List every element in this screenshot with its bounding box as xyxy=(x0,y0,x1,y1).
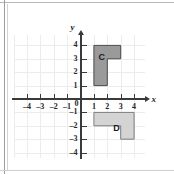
y-tick-label: 4 xyxy=(64,41,78,49)
y-tick-label: –2 xyxy=(64,122,78,130)
x-tick-label: –4 xyxy=(21,103,33,111)
x-tick-label: –2 xyxy=(48,103,60,111)
x-tick-label: –3 xyxy=(34,103,46,111)
polygon-c xyxy=(94,45,121,85)
x-tick-label: 3 xyxy=(115,103,127,111)
x-tick-label: 1 xyxy=(88,103,100,111)
y-tick-label: –4 xyxy=(64,149,78,157)
x-tick-label: 4 xyxy=(128,103,140,111)
y-tick-label: 3 xyxy=(64,55,78,63)
x-tick-label: 2 xyxy=(101,103,113,111)
x-axis-label: x xyxy=(151,95,156,104)
shape-label-d: D xyxy=(113,124,120,133)
coordinate-plane: –4–3–2–112344321–1–2–3–40yxCD xyxy=(0,0,174,174)
figure-frame: –4–3–2–112344321–1–2–3–40yxCD xyxy=(0,0,174,174)
y-tick-label: 2 xyxy=(64,68,78,76)
y-tick-label: 1 xyxy=(64,82,78,90)
shape-layer xyxy=(0,0,174,174)
shape-label-c: C xyxy=(99,53,106,62)
y-tick-label: –3 xyxy=(64,135,78,143)
y-tick-label: –1 xyxy=(64,108,78,116)
origin-label: 0 xyxy=(69,100,79,108)
y-axis-label: y xyxy=(71,23,75,32)
